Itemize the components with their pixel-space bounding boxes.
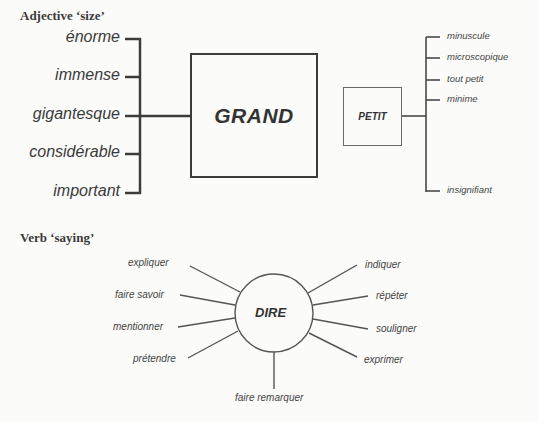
verb-repeter: répéter xyxy=(376,290,408,301)
verb-faire-remarquer: faire remarquer xyxy=(235,392,303,403)
synonym-enorme: énorme xyxy=(2,28,120,46)
synonym-important: important xyxy=(2,182,120,200)
verb-section-title: Verb ‘saying’ xyxy=(20,230,94,246)
grand-label: GRAND xyxy=(214,104,294,128)
synonym-tout-petit: tout petit xyxy=(447,73,483,84)
synonym-microscopique: microscopique xyxy=(447,51,508,62)
petit-label: PETIT xyxy=(358,111,386,122)
verb-faire-savoir: faire savoir xyxy=(115,289,164,300)
synonym-considerable: considérable xyxy=(2,143,120,161)
synonym-gigantesque: gigantesque xyxy=(2,105,120,123)
verb-mentionner: mentionner xyxy=(113,321,163,332)
petit-box: PETIT xyxy=(343,87,402,146)
verb-souligner: souligner xyxy=(376,323,417,334)
grand-box: GRAND xyxy=(190,53,318,178)
dire-label: DIRE xyxy=(255,305,286,320)
verb-exprimer: exprimer xyxy=(364,354,403,365)
synonym-insignifiant: insignifiant xyxy=(447,184,492,195)
verb-expliquer: expliquer xyxy=(128,257,169,268)
adjective-section-title: Adjective ‘size’ xyxy=(20,8,105,24)
synonym-minime: minime xyxy=(447,93,478,104)
synonym-immense: immense xyxy=(2,66,120,84)
verb-pretendre: prétendre xyxy=(133,353,176,364)
verb-indiquer: indiquer xyxy=(365,259,401,270)
synonym-minuscule: minuscule xyxy=(447,30,490,41)
